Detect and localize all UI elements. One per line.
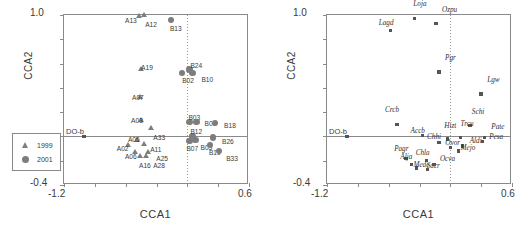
data-label-Lagd: Lagd: [379, 20, 394, 27]
data-point-A12: [141, 12, 147, 17]
data-point-Chhi: [437, 141, 440, 144]
panel-a-y-min-tick: -0.4: [30, 177, 47, 188]
y-axis-tick: [323, 64, 327, 65]
data-label-Ocva: Ocva: [440, 156, 455, 163]
x-axis-tick: [95, 183, 96, 187]
data-label-Mejo: Mejo: [461, 145, 476, 152]
data-point-B26: [210, 134, 216, 140]
legend-row-1999: 1999: [18, 138, 53, 152]
x-axis-tick: [218, 183, 219, 187]
panel-b-y-axis-title: CCA2: [286, 36, 297, 96]
data-point-B06: [193, 119, 199, 125]
legend-row-2001: 2001: [18, 152, 53, 166]
data-label-A02: A02: [117, 146, 129, 153]
data-label-A07: A07: [132, 95, 144, 102]
x-axis-tick: [420, 183, 421, 187]
circle-marker-icon: [18, 156, 32, 163]
x-axis-tick: [481, 183, 482, 187]
y-axis-tick: [323, 39, 327, 40]
data-point-B33: [216, 148, 222, 154]
triangle-marker-icon: [18, 142, 32, 148]
data-label-A12: A12: [145, 22, 157, 29]
y-axis-tick: [60, 39, 64, 40]
panel-b-x-min-tick: -1.2: [311, 188, 328, 199]
data-point-Loja: [413, 17, 416, 20]
data-label-B10: B10: [201, 77, 213, 84]
do-b-vector-marker: [82, 135, 85, 138]
data-label-A11: A11: [150, 147, 161, 154]
y-axis-tick: [323, 88, 327, 89]
data-point-Lgw: [479, 92, 482, 95]
y-axis-tick: [60, 64, 64, 65]
x-axis-tick: [327, 183, 328, 187]
panel-a-legend: 1999 2001: [12, 133, 61, 171]
y-axis-tick: [60, 161, 64, 162]
data-label-A13: A13: [125, 18, 137, 25]
x-axis-tick: [358, 183, 359, 187]
do-b-vector-label: DO-b: [329, 127, 347, 136]
data-label-Pesa: Pesa: [489, 134, 503, 141]
data-point-A28: [143, 153, 149, 158]
y-axis-tick: [323, 15, 327, 16]
data-label-Loja: Loja: [413, 1, 426, 8]
data-label-Accb: Accb: [411, 128, 425, 135]
panel-a-x-axis-title: CCA1: [63, 208, 248, 220]
x-axis-tick: [512, 183, 513, 187]
data-point-B13: [168, 17, 174, 23]
x-axis-tick: [64, 183, 65, 187]
do-b-vector-label: DO-b: [66, 127, 84, 136]
x-axis-tick: [187, 183, 188, 187]
data-label-B07: B07: [186, 146, 198, 153]
data-point-B07: [186, 138, 192, 144]
panel-b-plot-area: DO-bLagdLojaOzpuPgrLgwCrcbSchiAccbChhiHi…: [326, 14, 511, 184]
data-label-B18: B18: [224, 123, 236, 130]
x-axis-tick: [157, 183, 158, 187]
data-label-B02: B02: [182, 78, 194, 85]
data-point-A16: [137, 153, 143, 158]
data-point-A11: [141, 141, 147, 146]
panel-a-y-max-tick: 1.0: [30, 7, 44, 18]
panel-a-x-min-tick: -1.2: [48, 188, 65, 199]
panel-b-x-max-tick: 0.6: [501, 188, 515, 199]
data-point-B05: [192, 137, 198, 143]
x-axis-tick: [450, 183, 451, 187]
cca-ordination-figure: CCA2 1.0 -0.4 -1.2 0.6 CCA1 a DO-bA13A12…: [0, 0, 527, 234]
data-point-A33: [148, 125, 154, 130]
data-label-A25: A25: [156, 156, 168, 163]
data-point-B18: [212, 120, 218, 126]
x-axis-tick: [389, 183, 390, 187]
data-label-B33: B33: [226, 156, 238, 163]
data-label-B26: B26: [222, 139, 234, 146]
x-axis-tick: [249, 183, 250, 187]
x-axis-tick: [126, 183, 127, 187]
data-label-A16: A16: [139, 163, 151, 170]
data-point-Lagd: [389, 29, 392, 32]
data-label-A06: A06: [125, 154, 137, 161]
panel-a-y-axis-title: CCA2: [23, 36, 34, 96]
y-axis-tick: [60, 15, 64, 16]
data-label-Lgw: Lgw: [487, 77, 499, 84]
data-label-A19: A19: [141, 65, 153, 72]
data-label-Ovor: Ovor: [445, 140, 460, 147]
do-b-vector-marker: [345, 135, 348, 138]
data-label-Chla: Chla: [416, 150, 430, 157]
data-point-B10: [189, 70, 195, 76]
data-label-A33: A33: [153, 135, 165, 142]
panel-b-y-min-tick: -0.4: [293, 177, 310, 188]
y-axis-tick: [323, 112, 327, 113]
data-label-Pate: Pate: [491, 124, 504, 131]
panel-b-y-max-tick: 1.0: [293, 7, 307, 18]
data-label-B24: B24: [190, 63, 202, 70]
legend-label-1999: 1999: [37, 142, 53, 149]
data-label-A28: A28: [153, 163, 165, 170]
data-label-Ozpu: Ozpu: [442, 7, 457, 14]
data-label-Chhi: Chhi: [427, 134, 441, 141]
y-axis-tick: [323, 161, 327, 162]
data-label-Trcu: Trcu: [461, 121, 474, 128]
panel-a-plot-area: DO-bA13A12A19A07A03A33A05A02A11A06A25A16…: [63, 14, 248, 184]
data-point-Pgr: [437, 70, 440, 73]
panel-a-x-max-tick: 0.6: [238, 188, 252, 199]
panel-b: CCA2 1.0 -0.4 -1.2 0.6 CCA1 b DO-bLagdLo…: [263, 0, 526, 234]
data-point-B02: [179, 70, 185, 76]
data-point-Crcb: [395, 123, 398, 126]
